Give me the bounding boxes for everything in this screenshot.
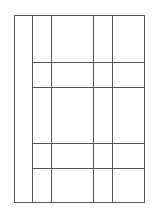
outer-border: [15, 16, 145, 203]
table-grid-diagram: [0, 0, 156, 214]
